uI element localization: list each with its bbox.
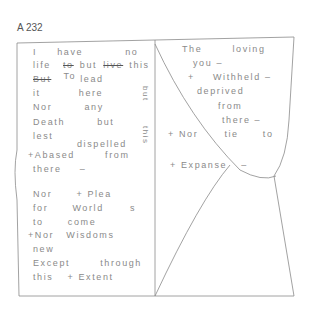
line-16: Except through xyxy=(33,258,142,268)
line-10: there – xyxy=(33,164,86,174)
line-13: to come xyxy=(33,217,96,227)
rline-3: + Withheld – xyxy=(188,72,272,82)
line-3: But To lead xyxy=(33,74,104,84)
line-8: dispelled xyxy=(77,139,127,149)
rline-6: there – xyxy=(222,115,261,125)
line-6: Death but xyxy=(33,117,114,127)
margin-note-but: but xyxy=(141,86,150,102)
line-4: it here xyxy=(33,88,103,98)
line-7: lest xyxy=(33,131,53,141)
line-12: for World s xyxy=(33,203,136,213)
line-5: Nor any xyxy=(33,102,104,112)
rline-5: from xyxy=(218,101,242,111)
fold-line xyxy=(155,165,230,296)
rline-1: The loving xyxy=(182,44,266,54)
rline-2: you – xyxy=(193,58,223,68)
line-1: I have no xyxy=(33,47,138,57)
rline-4: deprived xyxy=(197,86,244,96)
line-15: new xyxy=(33,244,54,254)
line-2: life to but live this xyxy=(33,60,150,70)
rline-7: + Nor tie to xyxy=(168,129,274,139)
line-11: Nor + Plea xyxy=(33,189,112,199)
line-17: this + Extent xyxy=(33,272,114,282)
rline-8: + Expanse – xyxy=(170,160,248,170)
margin-note-this: this xyxy=(141,126,150,144)
line-14: +Nor Wisdoms xyxy=(28,230,114,240)
line-9: +Abased from xyxy=(28,150,130,160)
